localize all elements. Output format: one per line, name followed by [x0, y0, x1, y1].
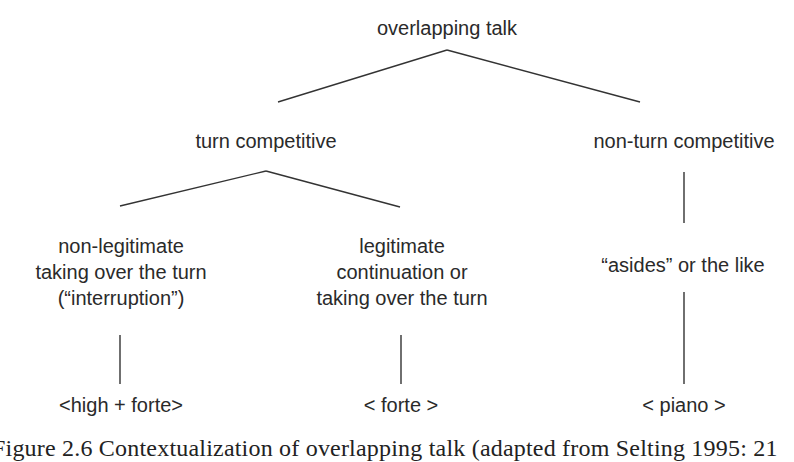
prosody-high-forte: <high + forte>	[59, 392, 183, 418]
node-line: (“interruption”)	[35, 285, 206, 311]
node-line: taking over the turn	[316, 285, 487, 311]
node-asides: “asides” or the like	[601, 252, 764, 278]
node-root: overlapping talk	[377, 15, 517, 41]
node-line: taking over the turn	[35, 259, 206, 285]
node-line: non-legitimate	[35, 233, 206, 259]
node-turn-competitive: turn competitive	[195, 128, 336, 154]
node-non-legitimate-interruption: non-legitimate taking over the turn (“in…	[35, 233, 206, 311]
edge-root-turn-competitive	[278, 50, 447, 102]
node-legitimate-continuation: legitimate continuation or taking over t…	[316, 233, 487, 311]
edge-turn-competitive-non-legitimate	[120, 171, 266, 206]
edge-turn-competitive-legitimate	[266, 171, 400, 207]
edge-root-non-turn-competitive	[447, 50, 640, 102]
node-non-turn-competitive: non-turn competitive	[593, 128, 774, 154]
prosody-piano: < piano >	[642, 392, 725, 418]
figure-caption: Figure 2.6 Contextualization of overlapp…	[0, 435, 778, 462]
node-line: legitimate	[316, 233, 487, 259]
node-line: continuation or	[316, 259, 487, 285]
prosody-forte: < forte >	[364, 392, 439, 418]
